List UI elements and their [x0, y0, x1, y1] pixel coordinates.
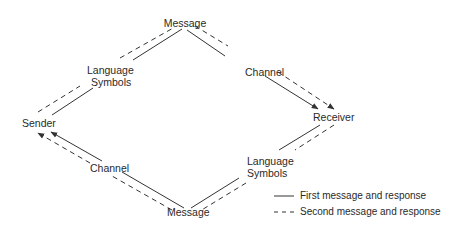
- node-message-top: Message: [164, 17, 207, 29]
- node-language-symbols-top: Language Symbols: [87, 64, 134, 88]
- node-language-symbols-bottom-line2: Symbols: [247, 167, 294, 179]
- node-language-symbols-bottom-line1: Language: [247, 155, 294, 167]
- legend-solid-label: First message and response: [300, 190, 426, 202]
- node-channel-top: Channel: [245, 66, 284, 78]
- node-sender: Sender: [22, 117, 56, 129]
- node-language-symbols-top-line2: Symbols: [87, 76, 134, 88]
- node-message-bottom: Message: [167, 206, 210, 218]
- node-language-symbols-bottom: Language Symbols: [247, 155, 294, 179]
- node-receiver: Receiver: [313, 111, 354, 123]
- node-channel-bottom: Channel: [90, 162, 129, 174]
- node-language-symbols-top-line1: Language: [87, 64, 134, 76]
- legend-dashed-label: Second message and response: [300, 206, 441, 218]
